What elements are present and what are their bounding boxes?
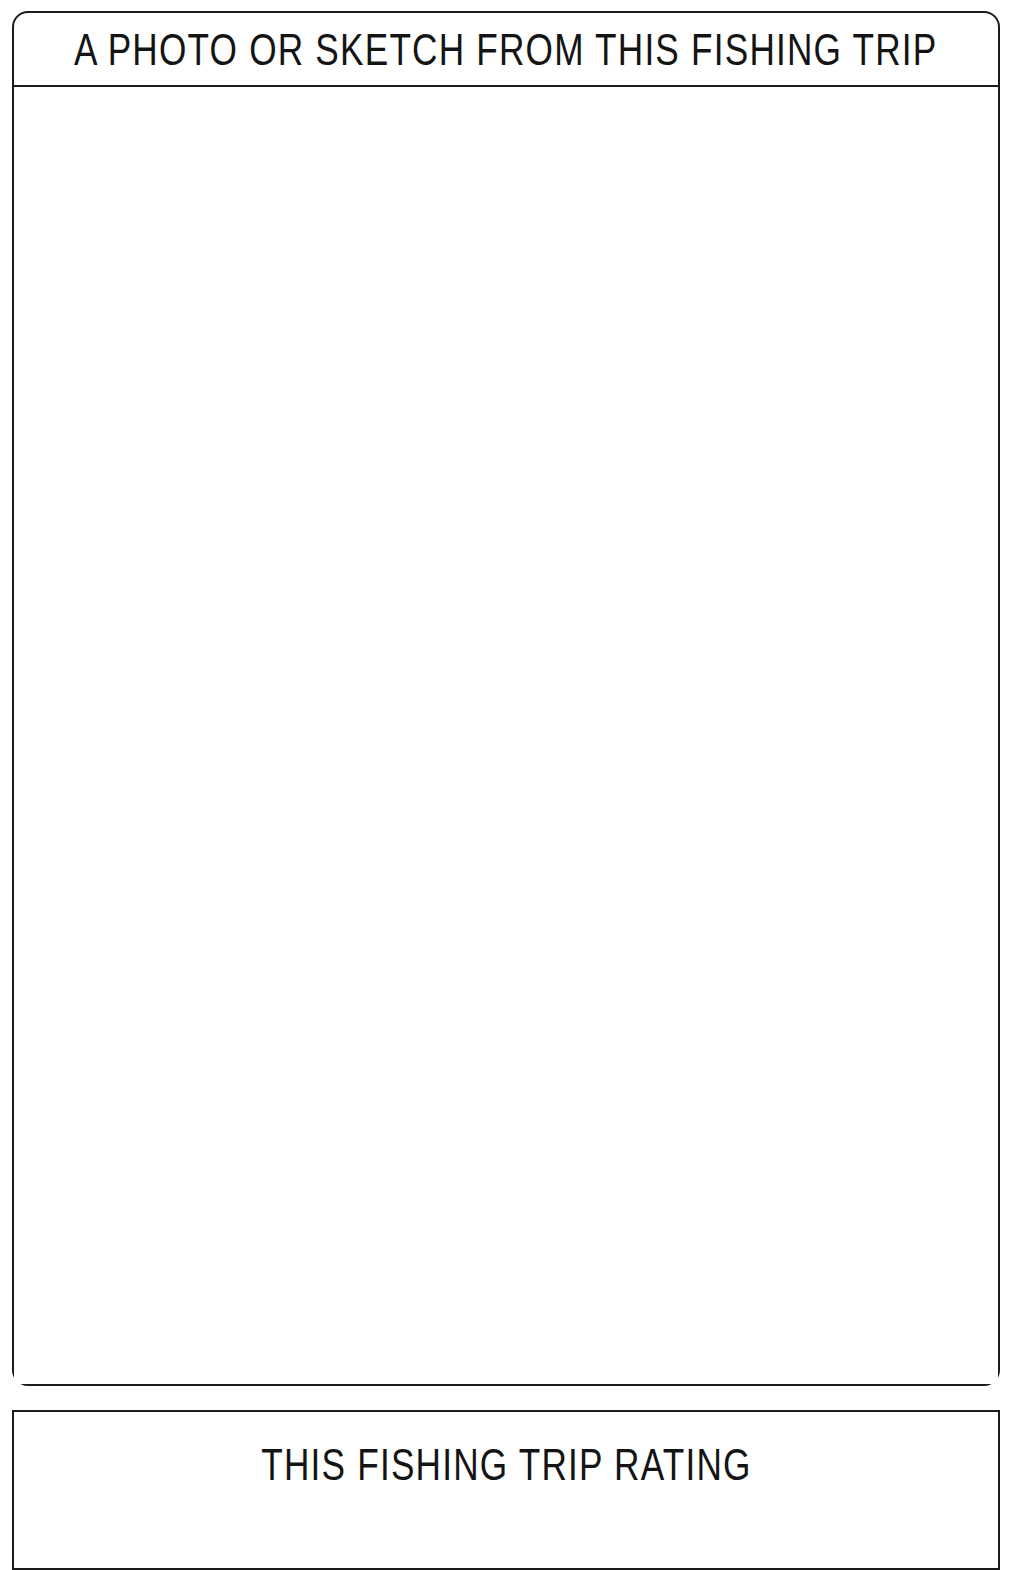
photo-sketch-title: A PHOTO OR SKETCH FROM THIS FISHING TRIP (74, 28, 938, 72)
photo-sketch-header: A PHOTO OR SKETCH FROM THIS FISHING TRIP (14, 13, 998, 87)
trip-rating-panel: THIS FISHING TRIP RATING (12, 1410, 1000, 1570)
photo-sketch-panel: A PHOTO OR SKETCH FROM THIS FISHING TRIP (12, 11, 1000, 1386)
trip-rating-title: THIS FISHING TRIP RATING (261, 1443, 751, 1487)
trip-rating-header: THIS FISHING TRIP RATING (14, 1412, 998, 1490)
photo-sketch-drawing-area[interactable] (14, 87, 998, 1384)
